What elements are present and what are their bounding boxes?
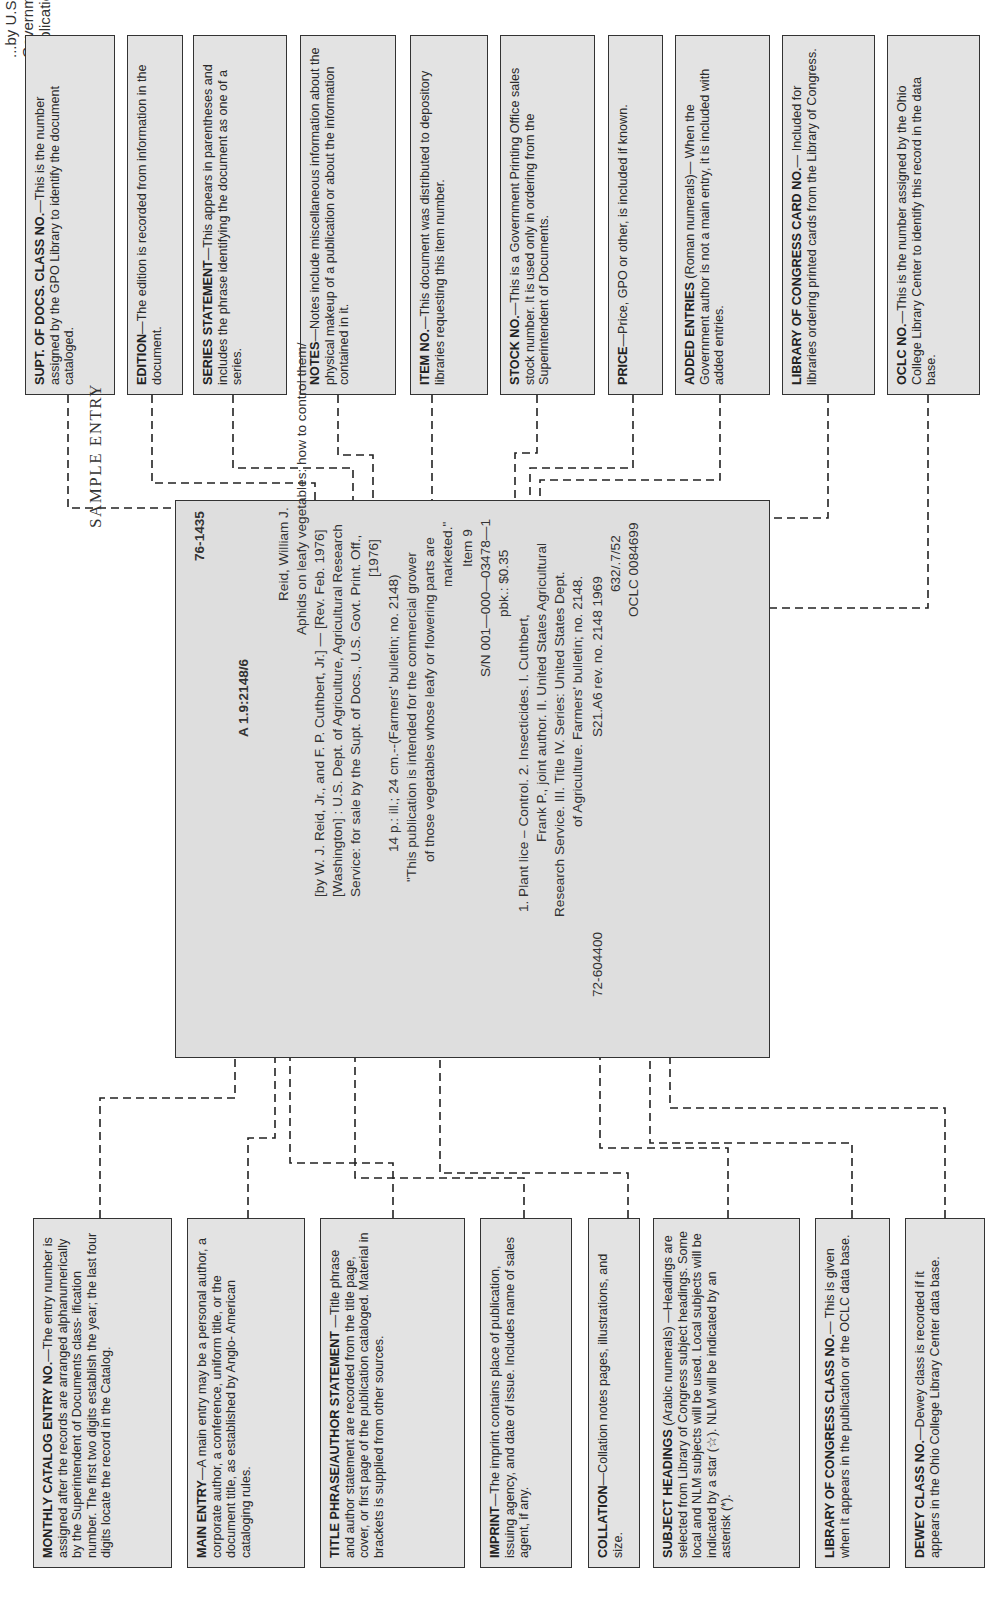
entry-number: 76-1435 [192,511,207,561]
item-number: Item 9 [460,529,475,567]
note-lc-card-no: LIBRARY OF CONGRESS CARD NO.— Included f… [782,35,875,395]
note-stock-no: STOCK NO.—This is a Government Printing … [500,35,595,395]
lc-class-number: S21.A6 rev. no. 2148 1969 [590,576,605,737]
notes-line-1: "This publication is intended for the co… [404,552,419,882]
note-lc-class-no: LIBRARY OF CONGRESS CLASS NO.— This is g… [815,1218,890,1568]
added-entries-line-2: Research Service. III. Title IV. Series:… [552,571,567,917]
subject-headings-line-1: 1. Plant lice – Control. 2. Insecticides… [516,614,531,912]
main-entry-line: Reid, William J. [276,507,291,601]
note-dewey-class-no: DEWEY CLASS NO.—Dewey class is recorded … [905,1218,985,1568]
note-item-no: ITEM NO.—This document was distributed t… [410,35,488,395]
collation-line: 14 p.: ill.; 24 cm.--(Farmers' bulletin;… [386,574,401,852]
stock-number: S/N 001—000—03478—1 [478,519,493,677]
sample-entry-card: 76-1435 A 1.9:2148/6 Reid, William J. Ap… [175,500,770,1058]
note-series-statement: SERIES STATEMENT—This appears in parenth… [193,35,287,395]
imprint-line-3: [1976] [366,539,381,577]
note-imprint: IMPRINT—The imprint contains place of pu… [480,1218,572,1568]
author-statement-line: [by W. J. Reid, Jr., and F. P. Cuthbert,… [312,530,327,897]
oclc-number: OCLC 0084699 [626,523,641,617]
sample-entry-label: SAMPLE ENTRY [86,383,106,528]
note-supt-docs-class-no: SUPT. OF DOCS. CLASS NO.—This is the num… [25,35,115,395]
note-notes: NOTES—Notes include miscellaneous inform… [300,35,396,395]
note-main-entry: MAIN ENTRY—A main entry may be a persona… [187,1218,305,1568]
note-oclc-no: OCLC NO.—This is the number assigned by … [887,35,980,395]
note-edition: EDITION—The edition is recorded from inf… [127,35,183,395]
added-entries-line-1: Frank P., joint author. II. United State… [534,543,549,842]
added-entries-line-3: of Agriculture. Farmers' bulletin; no. 2… [570,576,585,827]
catalog-entry-diagram: ...by U.S. Government Publications. [0,0,993,1618]
supt-docs-class-number: A 1.9:2148/6 [236,659,251,737]
notes-line-2: of those vegetables whose leafy or flowe… [422,537,437,862]
notes-line-3: marketed." [440,522,455,587]
lc-card-number: 72-604400 [590,932,605,997]
dewey-class-number: 632/.7/52 [608,535,623,592]
price: pbk.: $0.35 [496,550,511,617]
note-collation: COLLATION—Collation notes pages, illustr… [588,1218,640,1568]
note-title-phrase-author-statement: TITLE PHRASE/AUTHOR STATEMENT —Title phr… [320,1218,465,1568]
imprint-line-1: [Washington] : U.S. Dept. of Agriculture… [330,524,345,897]
title-line: Aphids on leafy vegetables: how to contr… [294,343,309,635]
note-added-entries: ADDED ENTRIES (Roman numerals)— When the… [675,35,770,395]
note-subject-headings: SUBJECT HEADINGS (Arabic numerals) —Head… [653,1218,800,1568]
imprint-line-2: Service: for sale by the Supt. of Docs.,… [348,535,363,897]
note-price: PRICE—Price, GPO or other, is included i… [608,35,663,395]
note-monthly-catalog-entry-no: MONTHLY CATALOG ENTRY NO.—The entry numb… [33,1218,172,1568]
